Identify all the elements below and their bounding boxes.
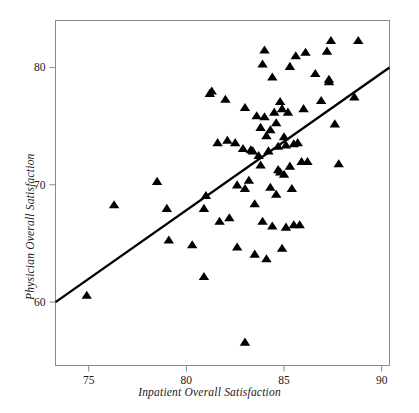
- plot-canvas: [0, 0, 419, 413]
- y-tick-label: 70: [22, 179, 46, 191]
- scatter-plot-figure: Inpatient Overall Satisfaction Physician…: [0, 0, 419, 413]
- y-tick-label: 80: [22, 61, 46, 73]
- y-tick-label: 60: [22, 296, 46, 308]
- x-axis-ticks: [89, 366, 382, 372]
- x-axis-title: Inpatient Overall Satisfaction: [0, 386, 419, 398]
- plot-frame: [56, 21, 390, 366]
- x-tick-label: 80: [181, 374, 193, 386]
- y-axis-title: Physician Overall Satisfaction: [24, 153, 36, 300]
- x-tick-label: 85: [278, 374, 290, 386]
- x-tick-label: 75: [83, 374, 95, 386]
- y-axis-ticks: [50, 67, 56, 302]
- x-tick-label: 90: [376, 374, 388, 386]
